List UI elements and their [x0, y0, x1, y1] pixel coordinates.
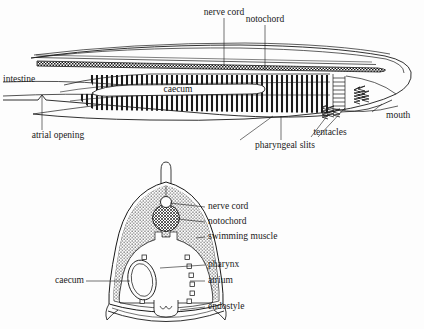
nerve-cord-circle: [161, 197, 172, 208]
notochord-disc: [153, 205, 180, 232]
label-lateral-atrial-opening: atrial opening: [32, 131, 85, 141]
label-lateral-tentacles: tentacles: [313, 128, 346, 138]
snout-dorsal-curve: [346, 76, 396, 94]
label-section-pharynx: pharynx: [208, 260, 239, 270]
label-section-notochord: notochord: [208, 217, 247, 227]
label-section-caecum: caecum: [55, 276, 84, 286]
gill-bar-column: [333, 74, 345, 112]
label-lateral-intestine: intestine: [3, 75, 35, 85]
lateral-view: [3, 18, 411, 140]
label-lateral-pharyngeal-slits: pharyngeal slits: [255, 141, 315, 151]
snout-ventral-curve: [340, 100, 392, 112]
label-section-endostyle: endostyle: [208, 302, 244, 312]
label-section-nerve-cord: nerve cord: [208, 202, 248, 212]
tentacles-upper-tuft: [354, 86, 369, 104]
endostyle: [154, 300, 178, 317]
posterior-tail-line: [33, 105, 100, 114]
label-lateral-caecum: caecum: [163, 85, 192, 95]
label-lateral-mouth: mouth: [386, 111, 410, 121]
cross-section-view: [86, 162, 230, 322]
label-lateral-nerve-cord: nerve cord: [204, 8, 244, 18]
label-section-swimming-muscle: swimming muscle: [208, 232, 277, 242]
label-section-atrium: atrium: [208, 276, 233, 286]
label-lateral-notochord: notochord: [246, 15, 285, 25]
lancelet-anatomy-figure: nerve cord notochord intestine caecum at…: [0, 0, 424, 329]
